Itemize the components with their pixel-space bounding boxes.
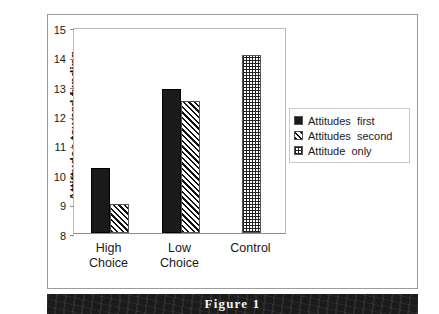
y-axis-tick-label: 15: [54, 24, 70, 36]
chart-legend: Attitudes firstAttitudes secondAttitude …: [289, 108, 410, 163]
y-axis-tick-label: 14: [54, 53, 70, 65]
bar: [91, 168, 110, 233]
y-axis-tick-mark: [70, 176, 74, 177]
y-axis-tick: 15: [54, 20, 74, 38]
figure-caption-banner: Figure 1: [47, 294, 418, 314]
x-axis-category-label: Control: [215, 241, 286, 256]
y-axis-tick-mark: [70, 147, 74, 148]
y-axis-tick: 12: [54, 108, 74, 126]
bar: [242, 55, 261, 233]
legend-item: Attitude only: [294, 143, 406, 158]
legend-item: Attitudes second: [294, 128, 406, 143]
y-axis-tick: 8: [60, 226, 74, 244]
y-axis-tick-label: 9: [60, 200, 70, 212]
x-axis-category-label: Low Choice: [144, 241, 215, 271]
y-axis-tick: 13: [54, 79, 74, 97]
y-axis-tick: 9: [60, 197, 74, 215]
bar: [181, 101, 200, 233]
y-axis-tick-mark: [70, 118, 74, 119]
y-axis-tick: 10: [54, 167, 74, 185]
bar: [110, 204, 129, 233]
y-axis-tick-label: 12: [54, 112, 70, 124]
legend-swatch: [294, 146, 303, 155]
y-axis-tick-mark: [70, 88, 74, 89]
y-axis-tick-mark: [70, 59, 74, 60]
legend-label: Attitude only: [308, 145, 372, 157]
figure-panel: Attittudes toward funding 89101112131415…: [47, 14, 418, 289]
legend-label: Attitudes second: [308, 130, 392, 142]
plot-area: 89101112131415: [73, 28, 286, 234]
figure-caption-text: Figure 1: [205, 296, 261, 312]
y-axis-tick-label: 13: [54, 83, 70, 95]
legend-swatch: [294, 131, 303, 140]
y-axis-tick-mark: [70, 206, 74, 207]
y-axis-tick: 11: [55, 138, 74, 156]
legend-swatch: [294, 116, 303, 125]
y-axis-tick: 14: [54, 49, 74, 67]
bar: [162, 89, 181, 233]
y-axis-tick-label: 11: [55, 141, 70, 153]
legend-item: Attitudes first: [294, 113, 406, 128]
y-axis-tick-mark: [70, 29, 74, 30]
y-axis-tick-label: 8: [60, 230, 70, 242]
legend-label: Attitudes first: [308, 115, 375, 127]
x-axis-category-label: High Choice: [73, 241, 144, 271]
y-axis-tick-mark: [70, 235, 74, 236]
y-axis-tick-label: 10: [54, 171, 70, 183]
